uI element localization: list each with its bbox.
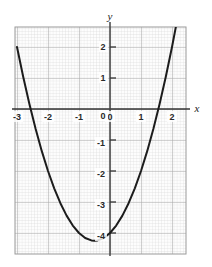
x-tick-label: 1 — [138, 112, 143, 122]
y-tick-label: -3 — [97, 200, 105, 210]
x-tick-label: 0 — [107, 112, 112, 122]
x-tick-label: -1 — [75, 112, 83, 122]
graph-figure: x y -3 -2 -1 0 1 2 2 1 0 -1 — [0, 0, 212, 267]
y-tick-label: -1 — [97, 138, 105, 148]
x-tick-label: 2 — [169, 112, 174, 122]
y-axis-label: y — [107, 10, 113, 22]
y-tick-label: 0 — [100, 111, 105, 121]
x-axis-label: x — [194, 102, 200, 114]
y-tick-label: -2 — [97, 169, 105, 179]
y-tick-label: -4 — [97, 231, 105, 241]
x-tick-label: -3 — [13, 112, 21, 122]
x-tick-label: -2 — [44, 112, 52, 122]
y-tick-label: 2 — [100, 42, 105, 52]
parabola-plot: x y -3 -2 -1 0 1 2 2 1 0 -1 — [0, 0, 212, 267]
y-tick-label: 1 — [100, 73, 105, 83]
